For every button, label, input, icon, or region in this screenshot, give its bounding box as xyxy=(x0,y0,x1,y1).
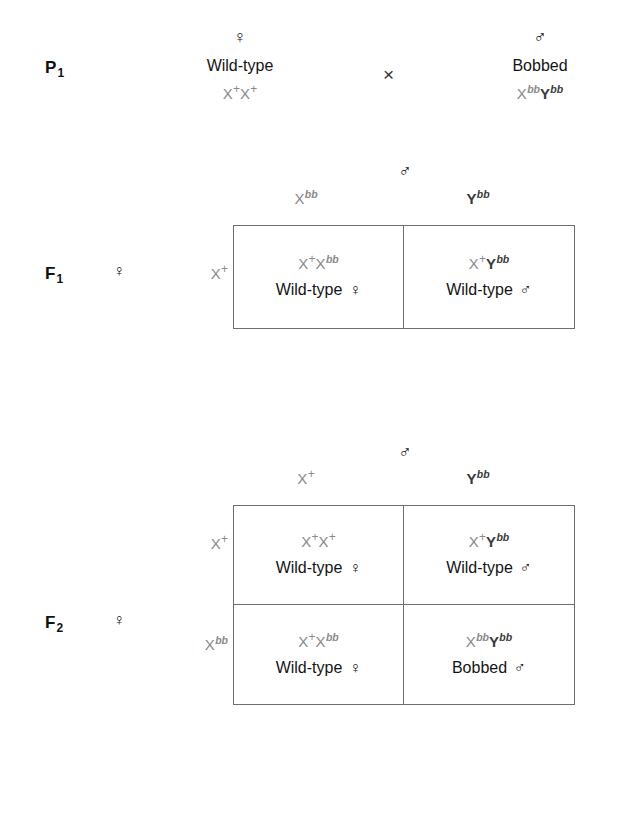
f1-male-symbol-icon: ♂ xyxy=(375,162,435,180)
cell-phenotype-line: Wild-type ♂ xyxy=(446,559,532,577)
punnett-square-f2: X+X+ Wild-type ♀ X+Ybb Wild-type ♂ X+Xbb… xyxy=(233,505,575,705)
cell-genotype: X+Ybb xyxy=(469,533,509,550)
f2-male-symbol-icon: ♂ xyxy=(375,443,435,461)
generation-label-p1: P1 xyxy=(45,58,63,78)
f2-column-header-1: Ybb xyxy=(438,470,518,487)
p1-female-parent: ♀ Wild-type X+X+ xyxy=(150,28,330,102)
generation-subscript-f1: 1 xyxy=(57,272,64,286)
cross-symbol-icon: × xyxy=(383,64,394,86)
punnett-cell-f2-0-0: X+X+ Wild-type ♀ xyxy=(234,506,404,605)
cell-phenotype-line: Wild-type ♀ xyxy=(276,659,362,677)
f2-row-header-1: Xbb xyxy=(182,636,228,653)
female-symbol-icon: ♀ xyxy=(349,282,361,298)
female-symbol-icon: ♀ xyxy=(150,28,330,46)
p1-male-parent: ♂ Bobbed XbbYbb xyxy=(460,28,620,102)
generation-subscript-p1: 1 xyxy=(58,66,65,80)
punnett-cell-f1-0-0: X+Xbb Wild-type ♀ xyxy=(234,226,404,328)
cell-phenotype-line: Bobbed ♂ xyxy=(452,659,526,677)
cell-genotype: X+Xbb xyxy=(298,633,338,650)
male-symbol-icon: ♂ xyxy=(520,282,532,298)
cell-phenotype: Bobbed xyxy=(452,659,507,677)
p1-male-genotype: XbbYbb xyxy=(460,85,620,102)
cell-phenotype-line: Wild-type ♀ xyxy=(276,559,362,577)
generation-label-f2: F2 xyxy=(45,613,62,633)
cell-genotype: X+Ybb xyxy=(469,255,509,272)
f2-column-header-0: X+ xyxy=(266,470,346,487)
figure-canvas: P1 ♀ Wild-type X+X+ × ♂ Bobbed XbbYbb F1… xyxy=(0,0,628,833)
f2-row-header-0: X+ xyxy=(182,535,228,552)
p1-female-phenotype: Wild-type xyxy=(150,57,330,75)
male-symbol-icon: ♂ xyxy=(514,660,526,676)
punnett-cell-f2-1-1: XbbYbb Bobbed ♂ xyxy=(404,605,574,704)
cell-phenotype-line: Wild-type ♀ xyxy=(276,281,362,299)
punnett-cell-f2-0-1: X+Ybb Wild-type ♂ xyxy=(404,506,574,605)
female-symbol-icon: ♀ xyxy=(349,660,361,676)
cell-phenotype: Wild-type xyxy=(276,559,343,577)
generation-label-f1: F1 xyxy=(45,264,62,284)
cell-phenotype: Wild-type xyxy=(276,659,343,677)
punnett-cell-f2-1-0: X+Xbb Wild-type ♀ xyxy=(234,605,404,704)
cell-phenotype: Wild-type xyxy=(276,281,343,299)
punnett-cell-f1-0-1: X+Ybb Wild-type ♂ xyxy=(404,226,574,328)
male-symbol-icon: ♂ xyxy=(460,28,620,46)
punnett-square-f1: X+Xbb Wild-type ♀ X+Ybb Wild-type ♂ xyxy=(233,225,575,329)
f1-column-header-0: Xbb xyxy=(266,190,346,207)
cell-phenotype-line: Wild-type ♂ xyxy=(446,281,532,299)
f1-row-header-0: X+ xyxy=(186,265,228,282)
p1-male-phenotype: Bobbed xyxy=(460,57,620,75)
generation-letter-p1: P xyxy=(45,58,57,77)
f1-column-header-1: Ybb xyxy=(438,190,518,207)
p1-female-genotype: X+X+ xyxy=(150,85,330,102)
cell-genotype: X+X+ xyxy=(301,533,336,550)
male-symbol-icon: ♂ xyxy=(520,560,532,576)
generation-subscript-f2: 2 xyxy=(57,621,64,635)
f1-female-symbol-icon: ♀ xyxy=(113,263,125,279)
cell-genotype: XbbYbb xyxy=(466,633,512,650)
cell-phenotype: Wild-type xyxy=(446,281,513,299)
generation-letter-f2: F xyxy=(45,613,56,632)
female-symbol-icon: ♀ xyxy=(349,560,361,576)
f2-female-symbol-icon: ♀ xyxy=(113,612,125,628)
cell-phenotype: Wild-type xyxy=(446,559,513,577)
generation-letter-f1: F xyxy=(45,264,56,283)
cell-genotype: X+Xbb xyxy=(298,255,338,272)
